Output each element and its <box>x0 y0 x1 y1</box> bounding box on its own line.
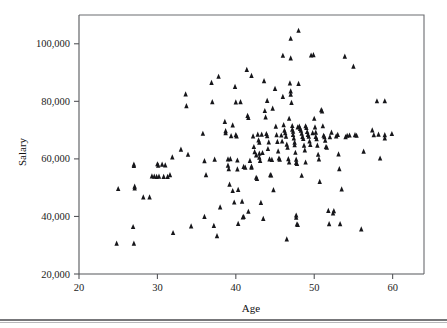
data-point <box>249 73 253 78</box>
data-point <box>202 214 206 219</box>
data-point <box>186 152 190 157</box>
data-point <box>229 133 233 138</box>
data-point <box>313 124 317 129</box>
data-point <box>361 148 365 153</box>
data-point <box>179 146 183 151</box>
data-point <box>240 199 244 204</box>
y-tick-label: 100,000 <box>36 38 70 49</box>
data-point <box>285 236 289 241</box>
data-point <box>299 173 303 178</box>
data-point <box>310 130 314 135</box>
data-point <box>256 132 260 137</box>
data-point <box>147 194 151 199</box>
data-point <box>168 172 172 177</box>
y-axis-title: Salary <box>16 137 28 166</box>
data-point <box>372 132 376 137</box>
data-point <box>318 179 322 184</box>
data-point <box>293 150 297 155</box>
data-point <box>274 123 278 128</box>
data-point <box>251 133 255 138</box>
x-tick-label: 50 <box>309 282 320 293</box>
data-point <box>131 224 135 229</box>
data-point <box>328 134 332 139</box>
data-point <box>204 172 208 177</box>
data-point <box>332 208 336 213</box>
data-point <box>336 151 340 156</box>
data-point <box>171 230 175 235</box>
data-point <box>236 221 240 226</box>
data-point-group <box>114 28 394 246</box>
data-point <box>307 138 311 143</box>
data-point <box>260 150 264 155</box>
data-point <box>230 122 234 127</box>
data-point <box>216 74 220 79</box>
data-point <box>288 80 292 85</box>
data-point <box>339 186 343 191</box>
data-point <box>184 103 188 108</box>
data-point <box>326 208 330 213</box>
x-axis-ticks: 2030405060 <box>74 274 398 293</box>
data-point <box>248 158 252 163</box>
data-point <box>280 138 284 143</box>
y-tick-label: 80,000 <box>41 96 70 107</box>
data-point <box>378 155 382 160</box>
data-point <box>259 200 263 205</box>
data-point <box>289 100 293 105</box>
y-axis-ticks: 20,00040,00060,00080,000100,000 <box>36 38 79 279</box>
plot-frame <box>79 15 424 274</box>
data-point <box>262 78 266 83</box>
x-tick-label: 30 <box>152 282 163 293</box>
data-point <box>235 157 239 162</box>
data-point <box>263 108 267 113</box>
x-tick-label: 20 <box>74 282 85 293</box>
data-point <box>160 161 164 166</box>
data-point <box>279 132 283 137</box>
data-point <box>329 130 333 135</box>
data-point <box>230 188 234 193</box>
data-point <box>303 159 307 164</box>
data-point <box>235 166 239 171</box>
data-point <box>287 116 291 121</box>
data-point <box>226 163 230 168</box>
data-point <box>274 132 278 137</box>
data-point <box>343 54 347 59</box>
data-point <box>321 123 325 128</box>
data-point <box>317 156 321 161</box>
data-point <box>227 182 231 187</box>
data-point <box>315 142 319 147</box>
data-point <box>232 199 236 204</box>
data-point <box>163 162 167 167</box>
data-point <box>286 156 290 161</box>
data-point <box>289 55 293 60</box>
data-point <box>246 209 250 214</box>
data-point <box>303 123 307 128</box>
data-point <box>114 241 118 246</box>
data-point <box>316 152 320 157</box>
data-point <box>170 154 174 159</box>
data-point <box>223 119 227 124</box>
data-point <box>273 86 277 91</box>
data-point <box>116 186 120 191</box>
data-point <box>281 122 285 127</box>
data-point <box>338 221 342 226</box>
data-point <box>390 131 394 136</box>
y-tick-label: 60,000 <box>41 153 70 164</box>
data-point <box>215 233 219 238</box>
data-point <box>212 223 216 228</box>
data-point <box>263 114 267 119</box>
data-point <box>132 241 136 246</box>
data-point <box>351 64 355 69</box>
data-point <box>245 67 249 72</box>
data-point <box>234 99 238 104</box>
scatter-plot: 20,00040,00060,00080,000100,000 20304050… <box>0 0 447 328</box>
data-point <box>276 148 280 153</box>
data-point <box>209 80 213 85</box>
data-point <box>259 132 263 137</box>
data-point <box>202 158 206 163</box>
x-tick-label: 60 <box>387 282 398 293</box>
y-tick-label: 40,000 <box>41 211 70 222</box>
y-tick-label: 20,000 <box>41 269 70 280</box>
data-point <box>233 84 237 89</box>
data-point <box>285 142 289 147</box>
data-point <box>201 131 205 136</box>
